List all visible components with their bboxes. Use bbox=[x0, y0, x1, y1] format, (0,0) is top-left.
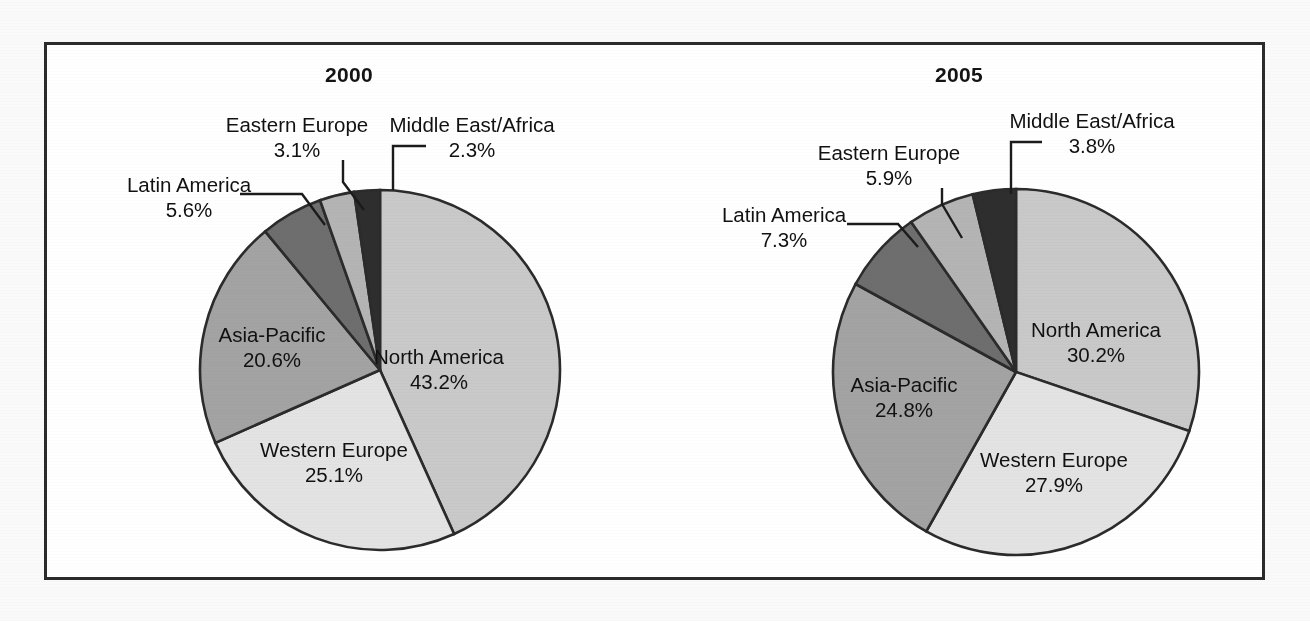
slice-label-value: 20.6% bbox=[243, 348, 301, 371]
slice-label-value: 7.3% bbox=[761, 228, 808, 251]
slice-label-value: 25.1% bbox=[305, 463, 363, 486]
slice-label-value: 43.2% bbox=[410, 370, 468, 393]
slice-label-category: Latin America bbox=[127, 173, 252, 196]
chart-panel-2000: 2000North America43.2%Western Europe25.1… bbox=[44, 42, 654, 580]
charts-container: 2000North America43.2%Western Europe25.1… bbox=[44, 42, 1265, 580]
slice-label-category: Eastern Europe bbox=[226, 113, 368, 136]
pie-chart-2000: North America43.2%Western Europe25.1%Asi… bbox=[44, 42, 654, 580]
slice-label-category: Western Europe bbox=[980, 448, 1128, 471]
middle-east-africa-leader bbox=[1011, 142, 1042, 194]
slice-label-middle-east-africa: Middle East/Africa2.3% bbox=[389, 113, 555, 161]
slice-label-value: 2.3% bbox=[449, 138, 496, 161]
slice-label-latin-america: Latin America7.3% bbox=[722, 203, 847, 251]
slice-label-middle-east-africa: Middle East/Africa3.8% bbox=[1009, 109, 1175, 157]
slice-label-eastern-europe: Eastern Europe5.9% bbox=[818, 141, 960, 189]
slice-label-value: 5.6% bbox=[166, 198, 213, 221]
chart-panel-2005: 2005North America30.2%Western Europe27.9… bbox=[654, 42, 1264, 580]
pie-chart-2005: North America30.2%Western Europe27.9%Asi… bbox=[654, 42, 1264, 580]
slice-label-category: Asia-Pacific bbox=[218, 323, 325, 346]
slice-label-category: North America bbox=[1031, 318, 1161, 341]
slice-label-category: Latin America bbox=[722, 203, 847, 226]
slice-label-value: 3.1% bbox=[274, 138, 321, 161]
slice-label-category: Eastern Europe bbox=[818, 141, 960, 164]
slice-label-eastern-europe: Eastern Europe3.1% bbox=[226, 113, 368, 161]
slice-label-category: Middle East/Africa bbox=[1009, 109, 1175, 132]
slice-label-category: Asia-Pacific bbox=[850, 373, 957, 396]
chart-page: 2000North America43.2%Western Europe25.1… bbox=[0, 0, 1310, 621]
slice-label-category: North America bbox=[374, 345, 504, 368]
slice-label-value: 30.2% bbox=[1067, 343, 1125, 366]
slice-label-category: Middle East/Africa bbox=[389, 113, 555, 136]
slice-label-latin-america: Latin America5.6% bbox=[127, 173, 252, 221]
slice-label-value: 24.8% bbox=[875, 398, 933, 421]
slice-label-value: 27.9% bbox=[1025, 473, 1083, 496]
slice-label-value: 5.9% bbox=[866, 166, 913, 189]
slice-label-category: Western Europe bbox=[260, 438, 408, 461]
slice-label-value: 3.8% bbox=[1069, 134, 1116, 157]
middle-east-africa-leader bbox=[393, 146, 426, 190]
